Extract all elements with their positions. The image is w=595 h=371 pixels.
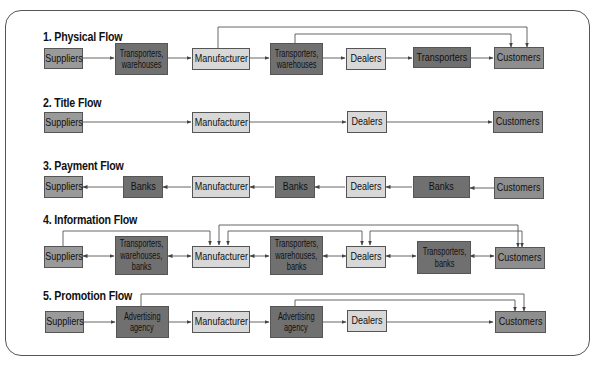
node-transporters-warehouses-2: Transporters,warehouses [270,43,323,75]
node-banks-2: Banks [275,176,315,198]
flow-title-promotion: 5. Promotion Flow [43,289,132,303]
node-dealers: Dealers [347,310,387,332]
node-transporters-warehouses: Transporters,warehouses [115,43,168,75]
node-customers: Customers [493,111,543,133]
node-suppliers: Suppliers [44,176,83,198]
flow-title-title: 2. Title Flow [43,96,101,110]
node-advertising-agency-2: Advertisingagency [270,306,323,338]
node-manufacturer: Manufacturer [192,176,250,198]
node-dealers: Dealers [346,246,386,268]
node-transporters-banks: Transporters,banks [417,241,471,274]
flow-title-information: 4. Information Flow [43,213,137,227]
node-transporters-warehouses-banks-2: Transporters,warehouses,banks [270,236,323,275]
node-banks-3: Banks [413,176,470,198]
node-customers: Customers [494,47,544,69]
node-dealers: Dealers [346,48,386,70]
node-manufacturer: Manufacturer [192,48,250,70]
node-transporters: Transporters [413,47,471,68]
node-suppliers: Suppliers [45,311,84,333]
node-customers: Customers [495,247,545,269]
node-manufacturer: Manufacturer [192,112,250,133]
node-banks: Banks [123,176,163,198]
node-dealers: Dealers [347,111,387,133]
flow-title-physical: 1. Physical Flow [43,30,122,44]
node-manufacturer: Manufacturer [192,246,250,268]
node-customers: Customers [495,311,546,333]
flow-title-payment: 3. Payment Flow [43,159,124,173]
node-suppliers: Suppliers [44,246,83,268]
node-suppliers: Suppliers [44,112,83,133]
node-suppliers: Suppliers [44,48,83,69]
node-advertising-agency: Advertisingagency [116,306,169,338]
node-transporters-warehouses-banks: Transporters,warehouses,banks [115,236,168,275]
node-dealers: Dealers [346,176,386,198]
node-customers: Customers [494,177,544,199]
node-manufacturer: Manufacturer [192,311,250,333]
